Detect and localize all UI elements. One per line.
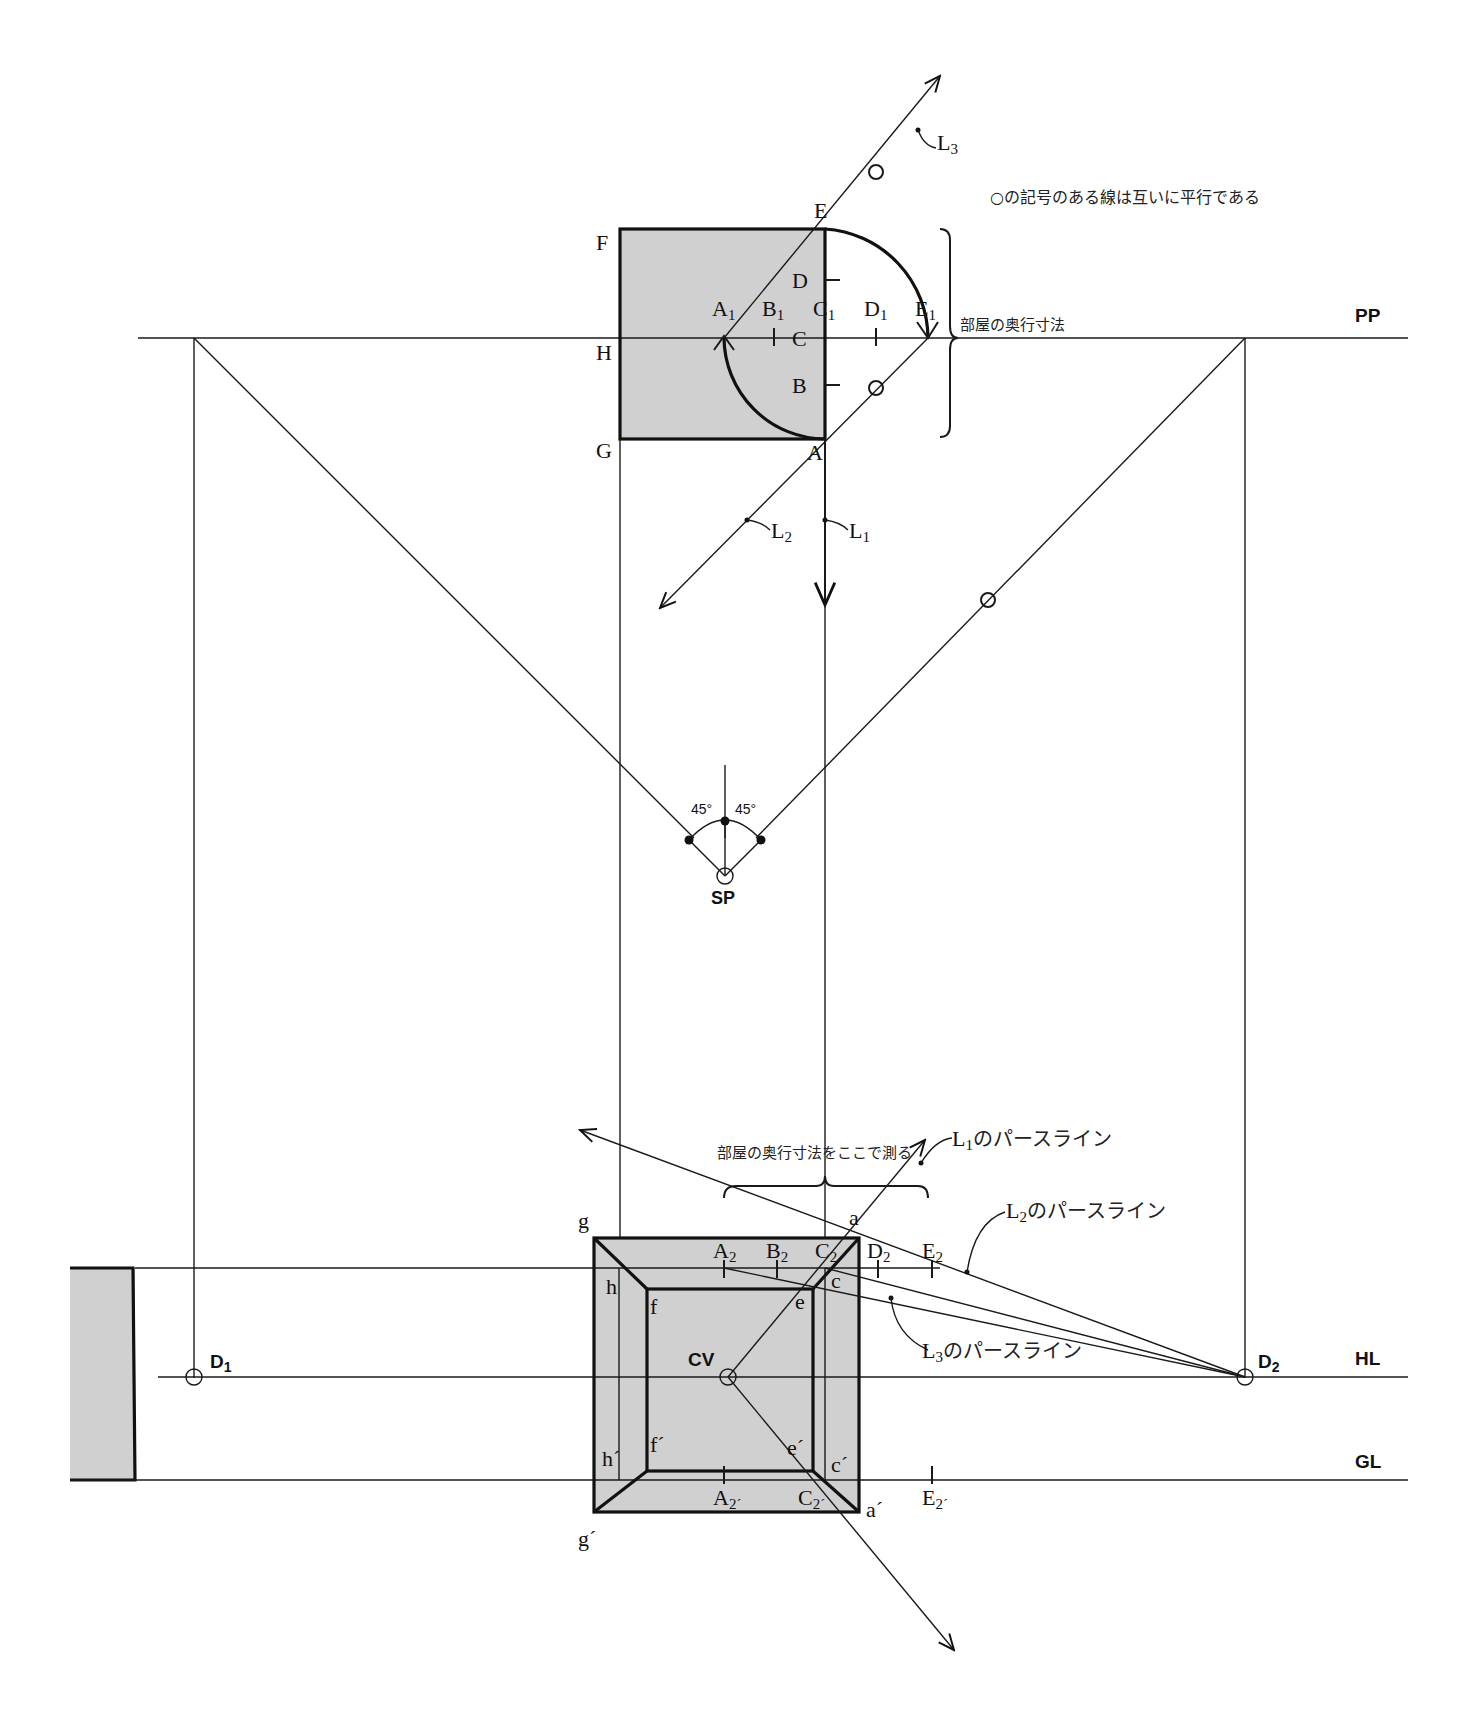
angle-left-label: 45° [691, 801, 712, 817]
label-D: D [792, 268, 808, 293]
line-L3 [724, 76, 940, 338]
parallel-marker-icon [869, 381, 883, 395]
svg-text:C1: C1 [813, 296, 835, 323]
sp-to-right-ray [756, 338, 1245, 838]
depth-brace [940, 229, 958, 437]
label-e-prime: e´ [787, 1435, 804, 1460]
L3-pers-label: L3のパースライン [922, 1338, 1082, 1365]
arc-E-to-E1 [825, 229, 928, 338]
label-c-prime: c´ [831, 1452, 848, 1477]
leader-L2-pers [967, 1212, 1005, 1272]
L1-pers-label: L1のパースライン [952, 1126, 1112, 1153]
label-HL: HL [1355, 1348, 1381, 1369]
label-g: g [578, 1208, 589, 1233]
label-a: a [849, 1205, 859, 1230]
label-C: C [792, 326, 807, 351]
svg-text:D2: D2 [867, 1238, 890, 1265]
label-CV: CV [688, 1349, 715, 1370]
label-h-prime: h´ [602, 1446, 620, 1471]
svg-text:D1: D1 [864, 296, 887, 323]
label-f: f [650, 1294, 658, 1319]
leader-L1 [825, 520, 848, 530]
label-D1: D1 [210, 1351, 232, 1375]
perspective-view [70, 1130, 1408, 1650]
label-G: G [596, 438, 612, 463]
label-L2: L2 [771, 518, 792, 545]
label-PP: PP [1355, 305, 1381, 326]
label-c: c [831, 1268, 841, 1293]
measure-label: 部屋の奥行寸法をここで測る [717, 1144, 912, 1162]
label-A: A [807, 440, 823, 465]
svg-text:E2: E2 [922, 1238, 943, 1265]
label-a-prime: a´ [866, 1497, 883, 1522]
angle-right-label: 45° [735, 801, 756, 817]
leader-L3 [918, 130, 936, 148]
L2-pers-label: L2のパースライン [1006, 1198, 1166, 1225]
label-f-prime: f´ [650, 1432, 665, 1457]
label-L3: L3 [937, 130, 958, 157]
svg-text:E1: E1 [915, 296, 936, 323]
label-E: E [814, 198, 827, 223]
room-depth-label: 部屋の奥行寸法 [960, 316, 1065, 334]
label-e: e [795, 1289, 805, 1314]
label-GL: GL [1355, 1451, 1382, 1472]
label-B: B [792, 373, 807, 398]
label-L1: L1 [849, 518, 870, 545]
svg-text:E2´: E2´ [922, 1485, 948, 1512]
parallel-marker-icon [869, 165, 883, 179]
perspective-construction-diagram: E F H G A D B C A1 B1 C1 D1 E1 L3 L2 L1 … [0, 0, 1465, 1712]
label-H: H [596, 340, 612, 365]
label-D2: D2 [1258, 1351, 1280, 1375]
label-SP: SP [711, 888, 735, 908]
label-g-prime: g´ [578, 1526, 596, 1551]
label-h: h [606, 1274, 617, 1299]
leader-L2 [747, 520, 770, 530]
label-F: F [596, 230, 608, 255]
parallel-note: ○の記号のある線は互いに平行である [990, 188, 1260, 207]
leader-L1-pers [921, 1138, 952, 1163]
